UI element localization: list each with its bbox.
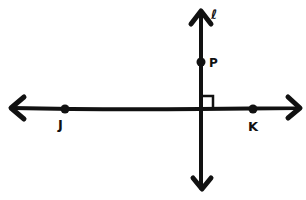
label-line-l: ℓ	[210, 7, 217, 22]
line-l	[191, 11, 211, 189]
point-j	[61, 105, 70, 114]
point-k	[249, 105, 258, 114]
label-j: J	[57, 117, 63, 132]
perpendicular-lines-diagram: J K P ℓ	[0, 0, 306, 200]
right-angle-marker	[202, 96, 213, 108]
point-p	[197, 58, 206, 67]
label-k: K	[248, 119, 259, 134]
label-p: P	[209, 56, 218, 70]
